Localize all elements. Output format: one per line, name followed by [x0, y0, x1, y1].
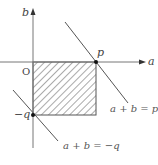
- point-p-label: p: [97, 46, 104, 59]
- diagram-canvas: b a O p −q a + b = p a + b = −q: [0, 0, 158, 165]
- line-p-label: a + b = p: [110, 103, 158, 114]
- line-neg-q-label: a + b = −q: [63, 140, 120, 151]
- hatched-region: [33, 62, 96, 115]
- point-p: [94, 60, 98, 64]
- origin-label: O: [22, 66, 30, 77]
- b-axis-arrow-icon: [31, 8, 36, 15]
- point-neg-q: [31, 113, 35, 117]
- b-axis-label: b: [22, 6, 29, 19]
- a-axis-arrow-icon: [139, 60, 146, 65]
- a-axis-label: a: [148, 55, 155, 68]
- point-neg-q-label: −q: [14, 108, 30, 121]
